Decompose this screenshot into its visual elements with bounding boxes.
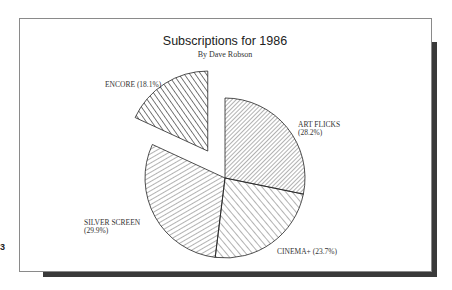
page-edge-mark: 3 [0,242,5,252]
frame-shadow-bottom [43,272,437,277]
slice-label-encore: ENCORE (18.1%) [105,80,162,89]
frame-shadow-right [432,42,437,277]
pie-chart: Subscriptions for 1986 By Dave Robson AR… [0,0,452,290]
chart-title: Subscriptions for 1986 [163,34,287,48]
slice-label-cinema: CINEMA+ (23.7%) [277,247,338,256]
chart-subtitle: By Dave Robson [198,50,253,59]
